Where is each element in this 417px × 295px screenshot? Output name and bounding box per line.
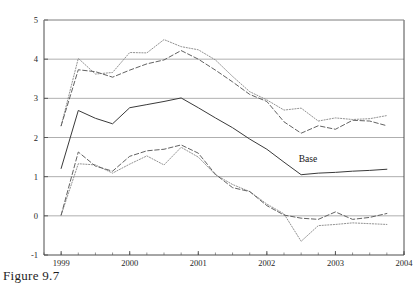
x-tick-label: 2001 — [190, 258, 207, 268]
x-tick-label: 2003 — [327, 258, 344, 268]
series-annotation-base: Base — [299, 154, 317, 164]
y-tick-label: 5 — [34, 15, 38, 25]
y-tick-label: 4 — [34, 54, 39, 64]
y-tick-label: 1 — [34, 172, 38, 182]
chart-plot-area: 543210-1 199920002001200220032004 Base — [0, 0, 417, 270]
series-line-lower-dotted — [61, 147, 387, 241]
series-line-base-solid — [61, 98, 387, 175]
line-chart: 543210-1 199920002001200220032004 Base — [0, 0, 417, 270]
y-tick-label: -1 — [31, 250, 38, 260]
y-tick-label: 2 — [34, 133, 38, 143]
y-axis-tick-labels: 543210-1 — [31, 15, 39, 260]
series-line-upper-dotted — [61, 40, 387, 126]
x-axis-tick-labels: 199920002001200220032004 — [53, 258, 414, 268]
gridline-group — [44, 20, 404, 216]
series-line-lower-dashed — [61, 145, 387, 219]
data-series-group — [61, 40, 387, 242]
x-tick-label: 2000 — [121, 258, 138, 268]
series-line-upper-dashed — [61, 51, 387, 134]
x-tick-label: 2002 — [258, 258, 275, 268]
x-tick-label: 2004 — [396, 258, 414, 268]
chart-annotations: Base — [299, 154, 317, 164]
x-tick-label: 1999 — [53, 258, 70, 268]
y-tick-label: 3 — [34, 93, 38, 103]
figure-caption: Figure 9.7 — [3, 268, 59, 284]
y-tick-label: 0 — [34, 211, 38, 221]
figure-container: 543210-1 199920002001200220032004 Base F… — [0, 0, 417, 295]
